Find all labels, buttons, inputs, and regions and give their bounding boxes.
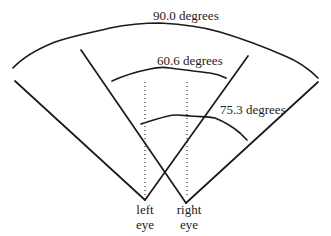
left-eye-label-line1: left — [136, 202, 154, 217]
right-eye-field-arc — [141, 115, 247, 140]
left-eye-outer-ray — [15, 81, 145, 200]
left-eye-field-arc — [112, 67, 226, 81]
right-eye-outer-ray — [186, 82, 318, 203]
outer-field-arc — [13, 23, 318, 78]
right-eye-field-label: 75.3 degrees — [220, 102, 286, 117]
right-eye-label-line2: eye — [180, 217, 198, 232]
left-eye-label-line2: eye — [136, 217, 154, 232]
left-eye-field-label: 60.6 degrees — [157, 53, 223, 68]
right-eye-label-line1: right — [177, 202, 202, 217]
visual-field-diagram: 90.0 degrees 60.6 degrees 75.3 degrees l… — [0, 0, 331, 236]
outer-field-label: 90.0 degrees — [153, 8, 219, 23]
